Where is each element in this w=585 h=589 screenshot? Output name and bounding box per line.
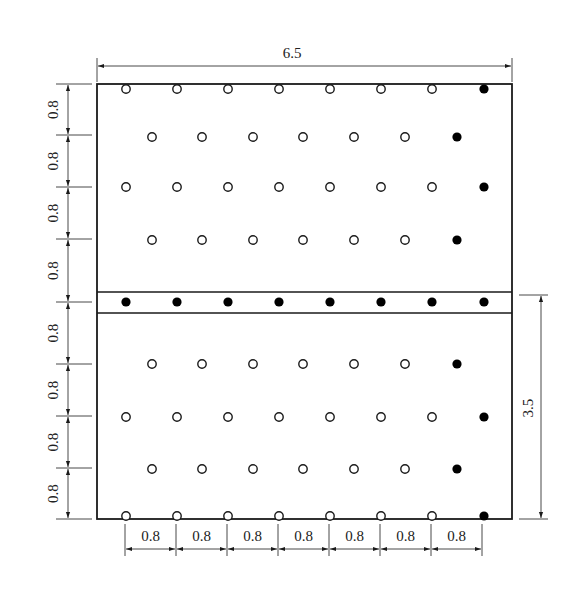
hole-open-icon [326, 413, 334, 421]
bottom-spacing-label: 0.8 [294, 528, 313, 544]
hole-open-icon [377, 183, 385, 191]
outer-frame [97, 84, 512, 519]
hole-open-icon [224, 183, 232, 191]
bottom-spacing-label: 0.8 [447, 528, 466, 544]
hole-filled-icon [479, 297, 488, 306]
hole-filled-icon [479, 182, 488, 191]
hole-open-icon [173, 85, 181, 93]
bottom-spacing-label: 0.8 [345, 528, 364, 544]
left-spacing-label: 0.8 [45, 484, 61, 503]
hole-open-icon [198, 236, 206, 244]
hole-filled-icon [121, 297, 130, 306]
hole-filled-icon [172, 297, 181, 306]
hole-open-icon [350, 360, 358, 368]
hole-open-icon [173, 183, 181, 191]
hole-filled-icon [479, 412, 488, 421]
left-spacing-label: 0.8 [45, 261, 61, 280]
hole-open-icon [401, 465, 409, 473]
hole-filled-icon [325, 297, 334, 306]
bottom-spacing-label: 0.8 [141, 528, 160, 544]
right-height-label: 3.5 [520, 399, 536, 418]
hole-open-icon [249, 133, 257, 141]
hole-open-icon [275, 512, 283, 520]
hole-open-icon [326, 183, 334, 191]
left-spacing-label: 0.8 [45, 152, 61, 171]
bottom-spacing-label: 0.8 [243, 528, 262, 544]
hole-open-icon [122, 183, 130, 191]
hole-filled-icon [452, 132, 461, 141]
hole-open-icon [428, 413, 436, 421]
hole-open-icon [148, 360, 156, 368]
hole-open-icon [428, 512, 436, 520]
hole-open-icon [326, 85, 334, 93]
top-width-label: 6.5 [283, 45, 302, 61]
left-spacing-label: 0.8 [45, 433, 61, 452]
hole-open-icon [148, 236, 156, 244]
hole-open-icon [428, 183, 436, 191]
hole-filled-icon [452, 464, 461, 473]
hole-open-icon [299, 360, 307, 368]
hole-open-icon [299, 236, 307, 244]
hole-filled-icon [452, 235, 461, 244]
hole-filled-icon [479, 511, 488, 520]
right-height-dimension: 3.5 [519, 295, 548, 519]
hole-open-icon [122, 413, 130, 421]
hole-filled-icon [452, 359, 461, 368]
hole-layout-diagram: 6.5 3.5 0.80.80.80.80.80.80.80.8 0.80.80… [0, 0, 585, 589]
bottom-spacing-dimensions: 0.80.80.80.80.80.80.8 [125, 524, 482, 556]
hole-open-icon [198, 465, 206, 473]
hole-filled-icon [274, 297, 283, 306]
hole-open-icon [350, 465, 358, 473]
hole-open-icon [401, 133, 409, 141]
left-spacing-label: 0.8 [45, 324, 61, 343]
hole-open-icon [198, 133, 206, 141]
hole-open-icon [428, 85, 436, 93]
hole-open-icon [249, 236, 257, 244]
hole-open-icon [377, 413, 385, 421]
hole-grid [121, 84, 488, 520]
hole-open-icon [275, 413, 283, 421]
hole-open-icon [299, 465, 307, 473]
hole-open-icon [173, 512, 181, 520]
hole-open-icon [224, 512, 232, 520]
hole-open-icon [148, 133, 156, 141]
hole-filled-icon [223, 297, 232, 306]
hole-open-icon [173, 413, 181, 421]
hole-open-icon [299, 133, 307, 141]
top-width-dimension: 6.5 [97, 45, 512, 82]
hole-filled-icon [376, 297, 385, 306]
hole-open-icon [275, 183, 283, 191]
hole-open-icon [275, 85, 283, 93]
hole-open-icon [249, 465, 257, 473]
hole-open-icon [249, 360, 257, 368]
hole-open-icon [377, 512, 385, 520]
hole-open-icon [377, 85, 385, 93]
hole-open-icon [350, 236, 358, 244]
bottom-spacing-label: 0.8 [396, 528, 415, 544]
hole-open-icon [122, 512, 130, 520]
left-spacing-label: 0.8 [45, 100, 61, 119]
hole-open-icon [350, 133, 358, 141]
hole-open-icon [401, 360, 409, 368]
hole-open-icon [198, 360, 206, 368]
hole-filled-icon [479, 84, 488, 93]
left-spacing-dimensions: 0.80.80.80.80.80.80.80.8 [45, 84, 92, 519]
hole-open-icon [224, 413, 232, 421]
hole-open-icon [148, 465, 156, 473]
hole-open-icon [326, 512, 334, 520]
hole-filled-icon [427, 297, 436, 306]
hole-open-icon [122, 85, 130, 93]
hole-open-icon [401, 236, 409, 244]
left-spacing-label: 0.8 [45, 204, 61, 223]
hole-open-icon [224, 85, 232, 93]
left-spacing-label: 0.8 [45, 381, 61, 400]
bottom-spacing-label: 0.8 [192, 528, 211, 544]
